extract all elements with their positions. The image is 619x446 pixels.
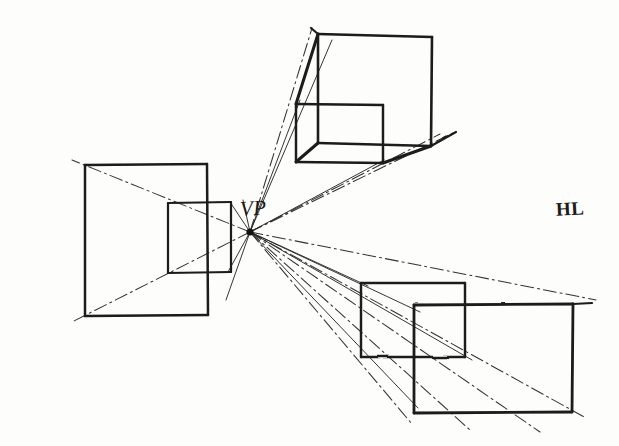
lower-box-stubs: [573, 303, 592, 304]
vanishing-point-rays: [72, 28, 596, 432]
upper-connector-bottomleft: [296, 143, 318, 162]
left-near-bottom: [85, 315, 208, 316]
left-box-far-face: [168, 202, 231, 273]
left-box: [85, 164, 231, 316]
upper-right-box: [296, 28, 456, 163]
left-far-top: [168, 202, 231, 203]
upper-far-right: [431, 37, 432, 146]
left-box-near-face: [85, 164, 208, 316]
fan-ray-5: [250, 232, 420, 312]
vanishing-point-label: VP: [239, 195, 267, 222]
upper-near-bottom: [296, 162, 383, 163]
lower-stub-topright: [573, 303, 592, 304]
upper-far-top: [318, 34, 432, 37]
horizon-line-label: HL: [555, 197, 585, 220]
left-near-top: [85, 164, 207, 165]
upper-near-top: [296, 104, 383, 105]
ray-lower-b: [250, 232, 586, 418]
vanishing-point-ray-fan: [226, 40, 472, 408]
upper-far-bottom: [318, 143, 431, 146]
vanishing-point-dot: [246, 228, 253, 235]
lower-near-top: [414, 304, 573, 305]
left-near-right: [207, 164, 208, 315]
left-far-bottom: [168, 272, 231, 273]
perspective-sketch-canvas: VP HL: [0, 0, 619, 446]
upper-stub-right: [431, 132, 456, 146]
upper-stub-topleft: [311, 28, 318, 34]
upper-box-far-face: [318, 34, 432, 146]
upper-box-near-face: [296, 104, 383, 163]
ray-lower-d: [250, 232, 412, 424]
lower-near-right: [572, 304, 573, 412]
fan-ray-3: [250, 160, 384, 232]
ray-lower-e: [250, 232, 540, 432]
fan-ray-7: [250, 232, 418, 408]
ray-left-bottom: [72, 232, 250, 322]
lower-box-near-face: [414, 304, 573, 413]
upper-connector-bottomright: [383, 146, 431, 163]
ray-left-top: [72, 160, 250, 232]
ray-upper-b: [250, 134, 440, 232]
lower-right-box: [361, 283, 592, 413]
ray-lower-a: [250, 232, 596, 300]
lower-near-bottom: [414, 412, 572, 413]
perspective-drawing-svg: [0, 0, 619, 446]
